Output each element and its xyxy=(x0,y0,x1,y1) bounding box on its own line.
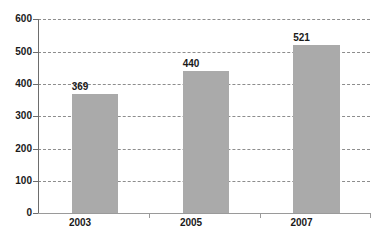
x-axis-tick-3 xyxy=(370,213,371,218)
y-axis-label-400: 400 xyxy=(4,79,32,89)
y-axis-label-500: 500 xyxy=(4,47,32,57)
bar-chart: 600 500 400 300 200 100 0 369 440 521 20… xyxy=(0,0,385,242)
y-axis-line xyxy=(38,19,39,214)
y-axis-label-600: 600 xyxy=(4,14,32,24)
y-axis-labels: 600 500 400 300 200 100 0 xyxy=(0,0,32,242)
x-axis-tick-1 xyxy=(149,213,150,218)
y-axis-label-0: 0 xyxy=(4,208,32,218)
x-axis-label-2005: 2005 xyxy=(168,217,214,229)
x-axis-label-2003: 2003 xyxy=(57,217,103,229)
y-axis-label-200: 200 xyxy=(4,144,32,154)
bar-2003 xyxy=(72,94,118,213)
bar-2007 xyxy=(293,45,340,213)
bar-value-2003: 369 xyxy=(57,81,103,92)
y-axis-label-300: 300 xyxy=(4,111,32,121)
x-axis-line xyxy=(38,213,370,214)
bar-value-2005: 440 xyxy=(168,58,214,69)
bar-2005 xyxy=(183,71,229,213)
plot-area xyxy=(38,19,370,213)
bar-value-2007: 521 xyxy=(278,32,325,43)
x-axis-tick-2 xyxy=(260,213,261,218)
x-axis-label-2007: 2007 xyxy=(278,217,325,229)
y-axis-label-100: 100 xyxy=(4,176,32,186)
gridline-600 xyxy=(38,19,370,20)
